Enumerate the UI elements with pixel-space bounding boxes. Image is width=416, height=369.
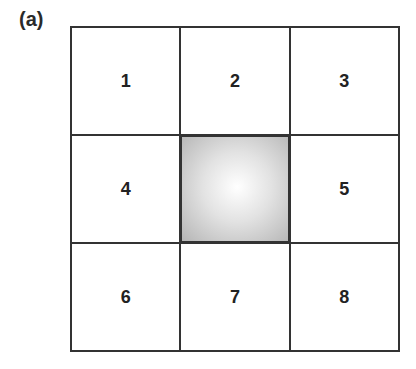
panel-label: (a) (19, 8, 43, 31)
neighborhood-grid: 1 2 3 4 5 6 7 8 (70, 26, 400, 352)
grid-cell-6: 6 (71, 243, 180, 351)
center-cell (180, 135, 289, 243)
grid-cell-2: 2 (180, 27, 289, 135)
grid-cell-4: 4 (71, 135, 180, 243)
grid-cell-7: 7 (180, 243, 289, 351)
grid-cell-1: 1 (71, 27, 180, 135)
grid-cell-8: 8 (290, 243, 399, 351)
grid-cell-5: 5 (290, 135, 399, 243)
grid-cell-3: 3 (290, 27, 399, 135)
